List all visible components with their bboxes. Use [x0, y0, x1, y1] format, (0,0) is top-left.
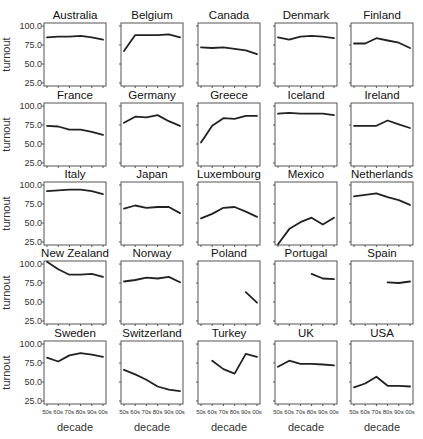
y-tick-label: 100.0: [19, 339, 42, 349]
x-tick-label: 70s: [65, 409, 75, 415]
facet-panel: Turkey50s60s70s80s90s00sdecade: [196, 327, 262, 433]
y-tick-label: 25.0: [24, 316, 42, 326]
facet-panel: USA50s60s70s80s90s00sdecade: [349, 327, 415, 433]
y-tick-label: 100.0: [19, 259, 42, 269]
panel-title: Spain: [367, 247, 396, 259]
y-tick-label: 25.0: [24, 158, 42, 168]
panel-title: USA: [370, 327, 394, 339]
x-tick-label: 60s: [53, 409, 63, 415]
facet-panel: Mexico: [273, 168, 337, 247]
panel-title: France: [57, 89, 93, 101]
y-tick-label: 50.0: [24, 139, 42, 149]
panel-title: Portugal: [285, 247, 328, 259]
panel-frame: [198, 261, 260, 324]
panel-frame: [275, 341, 337, 404]
panel-frame: [121, 261, 183, 324]
panel-frame: [351, 23, 413, 86]
panel-title: Switzerland: [122, 327, 181, 339]
y-tick-label: 100.0: [19, 101, 42, 111]
facet-panel: Denmark: [273, 9, 337, 88]
y-tick-label: 100.0: [19, 21, 42, 31]
panel-title: Luxembourg: [197, 168, 261, 180]
panel-title: Mexico: [288, 168, 324, 180]
facet-panel: France25.050.075.0100.0turnout: [0, 89, 106, 168]
panel-title: Norway: [133, 247, 172, 259]
y-axis-label: turnout: [0, 117, 12, 151]
facet-panel: UK50s60s70s80s90s00sdecade: [273, 327, 339, 433]
panel-title: Germany: [128, 89, 176, 101]
panel-title: Denmark: [283, 9, 330, 21]
panel-title: Ireland: [364, 89, 399, 101]
panel-frame: [351, 182, 413, 245]
facet-panel: Poland: [196, 247, 260, 326]
x-tick-label: 70s: [372, 409, 382, 415]
x-tick-label: 80s: [230, 409, 240, 415]
facet-panel: Switzerland50s60s70s80s90s00sdecade: [119, 327, 185, 433]
x-tick-label: 50s: [42, 409, 52, 415]
x-tick-label: 90s: [241, 409, 251, 415]
facet-panel: Norway: [119, 247, 183, 326]
facet-panel: New Zealand25.050.075.0100.0turnout: [0, 247, 109, 326]
y-tick-label: 75.0: [24, 358, 42, 368]
panel-frame: [351, 261, 413, 324]
x-axis-label: decade: [134, 421, 170, 433]
panel-frame: [275, 23, 337, 86]
y-tick-label: 25.0: [24, 237, 42, 247]
facet-panel: Japan: [119, 168, 183, 247]
panel-title: Poland: [211, 247, 247, 259]
x-tick-label: 60s: [207, 409, 217, 415]
panel-title: Finland: [363, 9, 401, 21]
x-tick-label: 50s: [196, 409, 206, 415]
x-tick-label: 00s: [405, 409, 415, 415]
panel-frame: [44, 103, 106, 166]
y-axis-label: turnout: [0, 275, 12, 309]
x-tick-label: 50s: [273, 409, 283, 415]
x-axis-label: decade: [288, 421, 324, 433]
facet-panel: Australia25.050.075.0100.0turnout: [0, 9, 106, 88]
x-axis-label: decade: [57, 421, 93, 433]
facet-panel: Canada: [196, 9, 260, 88]
panel-frame: [351, 103, 413, 166]
y-axis-label: turnout: [0, 196, 12, 230]
x-tick-label: 00s: [175, 409, 185, 415]
facet-panel: Netherlands: [349, 168, 413, 247]
x-tick-label: 80s: [153, 409, 163, 415]
faceted-turnout-chart: Australia25.050.075.0100.0turnoutBelgium…: [0, 0, 423, 439]
x-tick-label: 80s: [76, 409, 86, 415]
y-tick-label: 25.0: [24, 78, 42, 88]
x-tick-label: 90s: [164, 409, 174, 415]
panel-title: Netherlands: [351, 168, 413, 180]
facet-panel: Greece: [196, 89, 260, 168]
panel-frame: [275, 261, 337, 324]
x-tick-label: 90s: [87, 409, 97, 415]
panel-title: Japan: [136, 168, 167, 180]
facet-panel: Iceland: [273, 89, 337, 168]
x-axis-label: decade: [364, 421, 400, 433]
facet-panel: Sweden25.050.075.0100.0turnout50s60s70s8…: [0, 327, 108, 433]
x-tick-label: 00s: [329, 409, 339, 415]
x-tick-label: 70s: [296, 409, 306, 415]
x-axis-label: decade: [211, 421, 247, 433]
panel-frame: [121, 182, 183, 245]
y-tick-label: 75.0: [24, 278, 42, 288]
panel-frame: [121, 23, 183, 86]
panel-frame: [351, 341, 413, 404]
panel-title: UK: [298, 327, 314, 339]
panel-frame: [121, 103, 183, 166]
panel-title: Greece: [210, 89, 248, 101]
panel-title: New Zealand: [41, 247, 109, 259]
panel-frame: [198, 341, 260, 404]
x-tick-label: 50s: [349, 409, 359, 415]
panel-frame: [44, 23, 106, 86]
x-tick-label: 60s: [360, 409, 370, 415]
facet-panel: Spain: [349, 247, 413, 326]
y-tick-label: 100.0: [19, 180, 42, 190]
panel-title: Canada: [209, 9, 250, 21]
x-tick-label: 80s: [307, 409, 317, 415]
y-tick-label: 50.0: [24, 59, 42, 69]
panel-title: Australia: [53, 9, 98, 21]
x-tick-label: 90s: [318, 409, 328, 415]
x-tick-label: 50s: [119, 409, 129, 415]
facet-panel: Finland: [349, 9, 413, 88]
facet-panel: Ireland: [349, 89, 413, 168]
